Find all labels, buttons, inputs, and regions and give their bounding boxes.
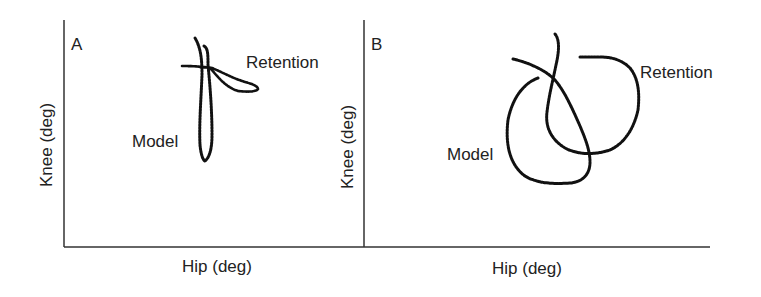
panel-b-model-label: Model (447, 145, 493, 165)
panel-a-model-trace (195, 38, 212, 161)
panel-b-retention-label: Retention (640, 63, 713, 83)
panel-a-retention-label: Retention (246, 53, 319, 73)
panel-b-letter: B (371, 35, 382, 55)
panel-b-y-label: Knee (deg) (338, 105, 358, 189)
panel-a-y-label: Knee (deg) (37, 103, 57, 187)
panel-b-model-trace (507, 59, 590, 183)
panel-a-model-label: Model (132, 132, 178, 152)
panel-a-letter: A (71, 35, 82, 55)
panel-a-x-label: Hip (deg) (182, 257, 252, 277)
panel-b-retention-trace (547, 34, 639, 154)
panel-b-x-label: Hip (deg) (492, 259, 562, 279)
